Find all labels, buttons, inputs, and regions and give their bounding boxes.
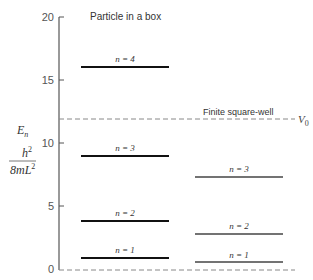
box-levels: n = 4 n = 3 n = 2 n = 1 <box>81 54 169 258</box>
tick-20: 20 <box>42 11 54 23</box>
energy-level-diagram: 0 5 10 15 20 Particle in a box En h2 8mL… <box>0 0 313 280</box>
tick-10: 10 <box>42 137 54 149</box>
svg-text:h2: h2 <box>22 145 32 160</box>
svg-text:n = 2: n = 2 <box>229 221 249 231</box>
svg-text:n = 1: n = 1 <box>115 245 135 255</box>
y-axis-label: En h2 8mL2 <box>9 123 36 177</box>
diagram-title: Particle in a box <box>90 11 161 22</box>
svg-text:En: En <box>16 123 28 139</box>
svg-text:n = 3: n = 3 <box>115 143 135 153</box>
svg-text:n = 1: n = 1 <box>229 250 249 260</box>
svg-text:n = 4: n = 4 <box>115 54 135 64</box>
tick-0: 0 <box>48 263 54 275</box>
svg-text:8mL2: 8mL2 <box>10 162 35 177</box>
y-ticks <box>59 17 64 206</box>
finite-well-label: Finite square-well <box>203 107 274 117</box>
well-levels: n = 3 n = 2 n = 1 <box>195 164 283 262</box>
svg-text:n = 2: n = 2 <box>115 208 135 218</box>
svg-text:n = 3: n = 3 <box>229 164 249 174</box>
tick-15: 15 <box>42 74 54 86</box>
tick-5: 5 <box>48 200 54 212</box>
v0-label: V0 <box>298 113 309 128</box>
